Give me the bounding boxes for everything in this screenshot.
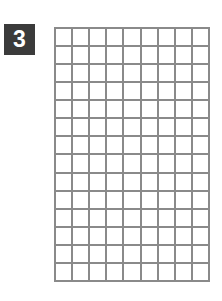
grid-cell xyxy=(73,137,90,155)
grid-cell xyxy=(176,101,193,119)
grid-cell xyxy=(193,47,210,65)
grid-cell xyxy=(159,155,176,173)
grid-cell xyxy=(107,228,124,246)
grid-cell xyxy=(90,119,107,137)
grid-cell xyxy=(56,47,73,65)
grid-cell xyxy=(176,47,193,65)
grid-cell xyxy=(159,65,176,83)
grid-cell xyxy=(90,47,107,65)
grid-cell xyxy=(73,246,90,264)
grid-cell xyxy=(176,83,193,101)
grid-cell xyxy=(142,47,159,65)
grid-cell xyxy=(176,264,193,282)
grid-cell xyxy=(56,101,73,119)
grid-cell xyxy=(56,137,73,155)
blank-grid xyxy=(54,27,210,282)
grid-cell xyxy=(142,246,159,264)
grid-cell xyxy=(142,101,159,119)
grid-cell xyxy=(176,228,193,246)
grid-cell xyxy=(193,246,210,264)
grid-cell xyxy=(107,47,124,65)
grid-cell xyxy=(159,264,176,282)
grid-cell xyxy=(142,83,159,101)
grid-cell xyxy=(56,174,73,192)
grid-cell xyxy=(193,264,210,282)
grid-cell xyxy=(142,192,159,210)
grid-cell xyxy=(73,192,90,210)
grid-cell xyxy=(124,137,141,155)
grid-cell xyxy=(124,155,141,173)
grid-cell xyxy=(56,83,73,101)
grid-cell xyxy=(56,119,73,137)
grid-cell xyxy=(107,264,124,282)
grid-cell xyxy=(90,101,107,119)
grid-cell xyxy=(193,137,210,155)
grid-cell xyxy=(142,29,159,47)
grid-cell xyxy=(124,65,141,83)
grid-cell xyxy=(124,101,141,119)
grid-cell xyxy=(124,174,141,192)
grid-cell xyxy=(90,264,107,282)
grid-cell xyxy=(159,137,176,155)
grid-cell xyxy=(73,29,90,47)
grid-cell xyxy=(124,246,141,264)
grid-cell xyxy=(73,119,90,137)
grid-cell xyxy=(90,155,107,173)
grid-cell xyxy=(176,137,193,155)
grid-cell xyxy=(193,210,210,228)
grid-cell xyxy=(176,210,193,228)
grid-cell xyxy=(73,83,90,101)
grid-cell xyxy=(193,83,210,101)
grid-cell xyxy=(193,101,210,119)
grid-cell xyxy=(107,246,124,264)
grid-cell xyxy=(124,192,141,210)
grid-cell xyxy=(56,29,73,47)
grid-cell xyxy=(176,29,193,47)
grid-cell xyxy=(73,174,90,192)
grid-cell xyxy=(73,65,90,83)
grid-cell xyxy=(107,137,124,155)
grid-cell xyxy=(142,137,159,155)
grid-cell xyxy=(56,210,73,228)
grid-cell xyxy=(124,83,141,101)
grid-cell xyxy=(107,155,124,173)
grid-cell xyxy=(142,119,159,137)
grid-cell xyxy=(124,228,141,246)
grid-cell xyxy=(73,47,90,65)
grid-cell xyxy=(176,119,193,137)
grid-cell xyxy=(107,174,124,192)
grid-cell xyxy=(159,192,176,210)
grid-cell xyxy=(90,210,107,228)
grid-cell xyxy=(193,119,210,137)
grid-cell xyxy=(90,29,107,47)
grid-cell xyxy=(159,228,176,246)
grid-cell xyxy=(73,101,90,119)
grid-cell xyxy=(107,119,124,137)
grid-cell xyxy=(159,119,176,137)
grid-cell xyxy=(176,174,193,192)
grid-cell xyxy=(159,29,176,47)
grid-cell xyxy=(124,264,141,282)
grid-cell xyxy=(142,264,159,282)
number-badge: 3 xyxy=(4,24,35,55)
grid-cell xyxy=(73,155,90,173)
grid-cell xyxy=(159,210,176,228)
grid-cell xyxy=(107,65,124,83)
grid-cell xyxy=(142,155,159,173)
grid-cell xyxy=(124,29,141,47)
grid-cell xyxy=(107,192,124,210)
grid-cell xyxy=(193,29,210,47)
grid-cell xyxy=(90,83,107,101)
grid-cell xyxy=(56,192,73,210)
grid-cell xyxy=(176,65,193,83)
grid-cell xyxy=(142,174,159,192)
grid-cell xyxy=(159,83,176,101)
grid-cell xyxy=(107,101,124,119)
grid-cell xyxy=(124,119,141,137)
grid-cell xyxy=(193,155,210,173)
grid-cell xyxy=(193,228,210,246)
grid-cell xyxy=(176,155,193,173)
grid-cell xyxy=(142,210,159,228)
grid-cell xyxy=(159,246,176,264)
grid-cell xyxy=(159,47,176,65)
